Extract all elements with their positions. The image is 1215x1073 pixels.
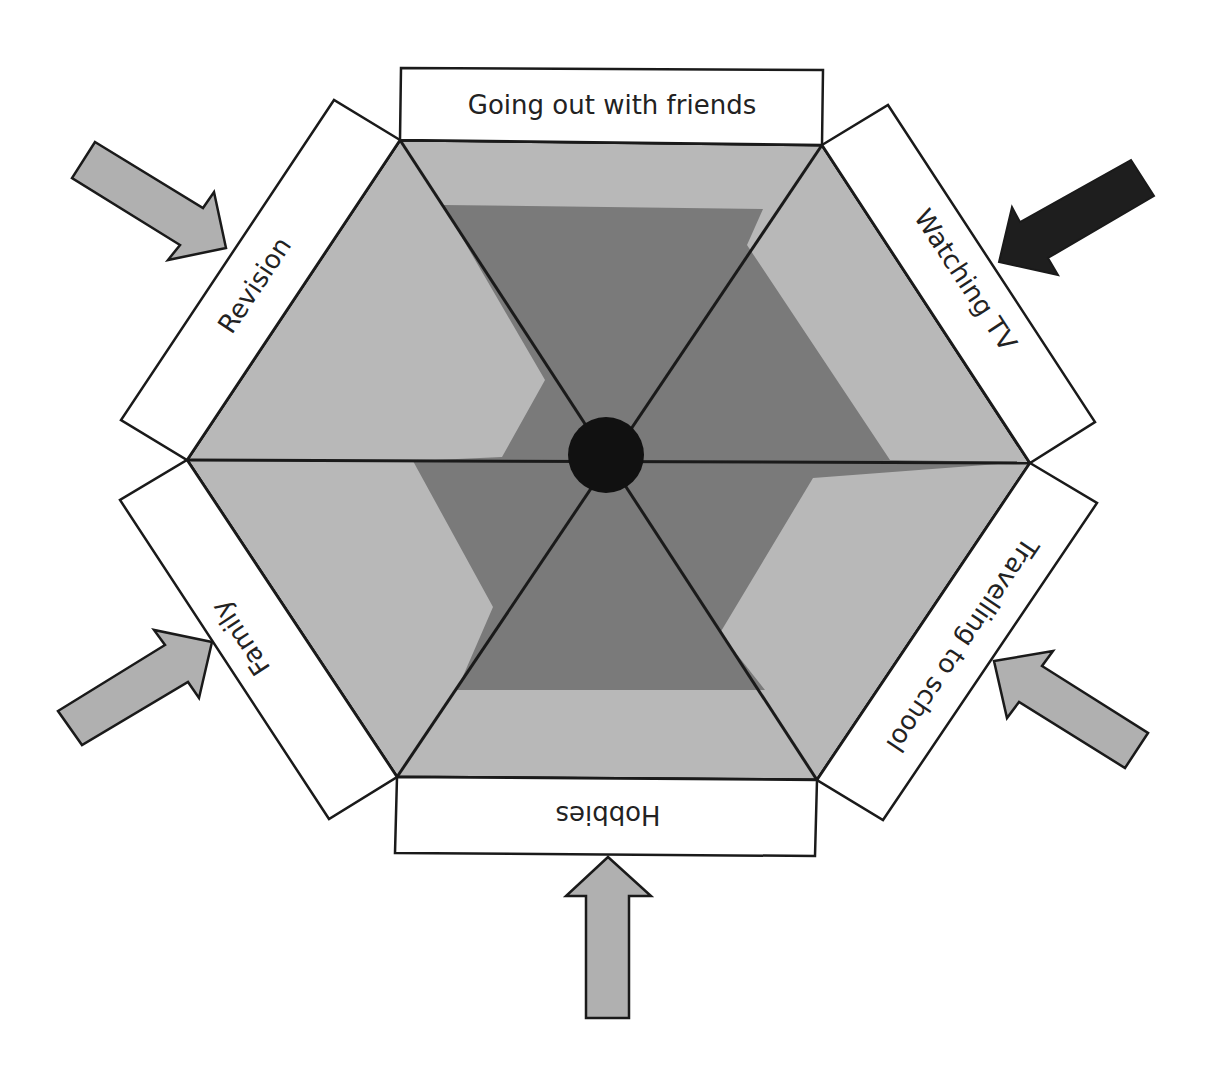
- arrow-watching-tv-icon: [999, 160, 1154, 275]
- label-box-hobbies: Hobbies: [395, 777, 817, 856]
- arrow-revision-icon: [72, 142, 226, 260]
- label-going-out-with-friends: Going out with friends: [468, 90, 756, 120]
- arrow-travelling-icon: [994, 651, 1148, 768]
- label-box-going-out: Going out with friends: [400, 68, 823, 145]
- arrow-hobbies-icon: [566, 857, 651, 1018]
- balance-wheel-diagram: Going out with friends Watching TV Trave…: [0, 0, 1215, 1073]
- label-hobbies: Hobbies: [555, 800, 660, 830]
- arrow-family-icon: [58, 630, 212, 745]
- center-hub: [568, 417, 644, 493]
